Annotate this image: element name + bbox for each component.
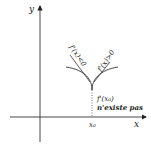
annotation-derivative: f'(x₀) bbox=[96, 95, 114, 103]
x-axis-label: x bbox=[134, 119, 139, 129]
annotation-not-exist: n'existe pas bbox=[97, 103, 143, 112]
cusp-diagram: y x x₀ f'(x)<0 f'(x)>0 f'(x₀) n'existe p… bbox=[0, 0, 151, 149]
x0-label: x₀ bbox=[89, 121, 96, 129]
left-branch-curve bbox=[66, 67, 92, 90]
right-branch-curve bbox=[92, 67, 118, 90]
y-axis-label: y bbox=[28, 4, 35, 14]
